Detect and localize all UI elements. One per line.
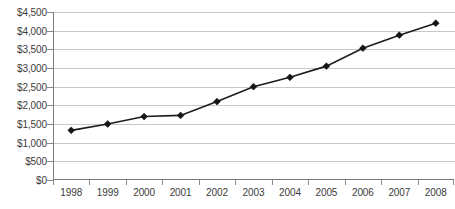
- y-tick-mark: [47, 87, 53, 88]
- data-series-layer: [53, 0, 454, 209]
- data-point-marker: [287, 74, 294, 81]
- y-tick-label: $0: [36, 175, 47, 186]
- y-tick-label: $500: [25, 156, 47, 167]
- y-tick-label: $1,000: [17, 137, 47, 148]
- x-tick-mark: [126, 180, 127, 185]
- x-tick-label: 2003: [243, 187, 265, 198]
- x-tick-mark: [418, 180, 419, 185]
- x-tick-mark: [381, 180, 382, 185]
- y-tick-label: $4,500: [17, 7, 47, 18]
- y-tick-mark: [47, 124, 53, 125]
- y-tick-label: $2,000: [17, 100, 47, 111]
- data-point-marker: [250, 83, 257, 90]
- x-tick-label: 2006: [352, 187, 374, 198]
- data-point-marker: [68, 127, 75, 134]
- x-tick-label: 2002: [206, 187, 228, 198]
- y-tick-label: $3,500: [17, 44, 47, 55]
- x-tick-label: 1999: [97, 187, 119, 198]
- data-point-marker: [104, 121, 111, 128]
- y-axis: $0$500$1,000$1,500$2,000$2,500$3,000$3,5…: [0, 0, 47, 209]
- y-tick-label: $1,500: [17, 119, 47, 130]
- data-point-marker: [177, 112, 184, 119]
- x-tick-mark: [89, 180, 90, 185]
- x-tick-mark: [272, 180, 273, 185]
- y-tick-label: $4,000: [17, 25, 47, 36]
- y-tick-mark: [47, 143, 53, 144]
- x-tick-label: 2001: [170, 187, 192, 198]
- x-tick-label: 1998: [60, 187, 82, 198]
- x-tick-label: 2004: [279, 187, 301, 198]
- y-tick-label: $3,000: [17, 63, 47, 74]
- x-tick-label: 2005: [315, 187, 337, 198]
- data-point-marker: [396, 32, 403, 39]
- data-point-marker: [141, 113, 148, 120]
- y-tick-mark: [47, 49, 53, 50]
- data-point-marker: [214, 98, 221, 105]
- x-tick-mark: [453, 180, 454, 185]
- x-tick-mark: [308, 180, 309, 185]
- y-tick-mark: [47, 12, 53, 13]
- y-tick-mark: [47, 105, 53, 106]
- plot-area: 1998199920002001200220032004200520062007…: [53, 0, 454, 209]
- data-point-marker: [323, 63, 330, 70]
- y-tick-mark: [47, 161, 53, 162]
- y-tick-mark: [47, 68, 53, 69]
- x-tick-mark: [345, 180, 346, 185]
- y-tick-mark: [47, 31, 53, 32]
- x-tick-mark: [199, 180, 200, 185]
- data-point-marker: [432, 20, 439, 27]
- x-tick-label: 2008: [425, 187, 447, 198]
- x-tick-mark: [53, 180, 54, 185]
- x-tick-label: 2007: [388, 187, 410, 198]
- y-tick-mark: [47, 180, 53, 181]
- x-tick-label: 2000: [133, 187, 155, 198]
- y-tick-label: $2,500: [17, 81, 47, 92]
- x-tick-mark: [162, 180, 163, 185]
- data-point-marker: [359, 45, 366, 52]
- x-tick-mark: [235, 180, 236, 185]
- series-line: [71, 23, 436, 130]
